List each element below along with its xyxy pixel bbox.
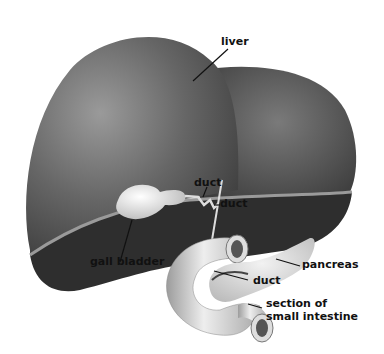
label-duct-upper: duct: [194, 177, 221, 189]
label-small-intestine: small intestine: [266, 311, 358, 323]
label-duct-pancreas: duct: [253, 275, 280, 287]
label-gall-bladder: gall bladder: [90, 256, 164, 268]
label-duct-lower: duct: [220, 198, 247, 210]
label-pancreas: pancreas: [302, 259, 359, 271]
label-section-of: section of: [266, 298, 327, 310]
label-liver: liver: [221, 36, 249, 48]
